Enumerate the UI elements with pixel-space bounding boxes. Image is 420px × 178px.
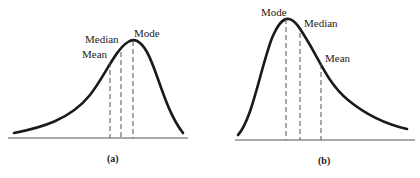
panel-a-caption: (a) xyxy=(107,153,119,165)
panel-a-mean-label: Mean xyxy=(82,48,108,60)
panel-b-curve xyxy=(238,19,407,135)
skewed-distributions-diagram: Median Mean Mode (a) Mode Median Mean (b… xyxy=(0,0,420,178)
panel-b-caption: (b) xyxy=(318,155,330,167)
panel-b: Mode Median Mean (b) xyxy=(235,6,415,167)
panel-b-mean-label: Mean xyxy=(325,52,351,64)
panel-b-mode-label: Mode xyxy=(261,6,287,18)
panel-b-median-label: Median xyxy=(304,17,338,29)
panel-a-mode-label: Mode xyxy=(134,27,160,39)
panel-a-median-label: Median xyxy=(85,33,119,45)
panel-a: Median Mean Mode (a) xyxy=(8,27,188,165)
